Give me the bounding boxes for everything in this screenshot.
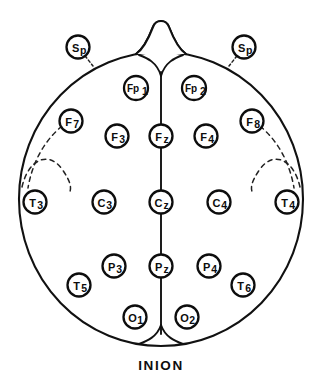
electrode-label-sub-fz: z <box>164 133 169 145</box>
leader-line-sp-left <box>85 56 93 66</box>
electrode-label-sub-cz: z <box>164 199 169 211</box>
electrode-label-sub-o2: 2 <box>189 314 195 326</box>
electrode-label-main-sp-left: S <box>72 42 79 54</box>
electrode-label-sub-t4: 4 <box>289 199 295 211</box>
electrode-c3[interactable]: C3 <box>93 191 116 214</box>
electrode-o1[interactable]: O1 <box>124 306 147 329</box>
electrode-o2[interactable]: O2 <box>176 306 199 329</box>
electrode-label-main-fz: F <box>155 131 162 143</box>
electrode-label-main-sp-right: S <box>238 42 245 54</box>
electrode-label-sub-p3: 3 <box>116 263 122 275</box>
electrode-fp2[interactable]: Fp2 <box>182 76 206 100</box>
electrode-label-sub-p4: 4 <box>211 263 217 275</box>
electrode-label-main-fp1: Fp <box>127 83 139 94</box>
electrode-label-sub-fp2: 2 <box>200 85 206 97</box>
electrode-label-sub-c3: 3 <box>106 199 112 211</box>
electrode-c4[interactable]: C4 <box>208 191 231 214</box>
electrode-label-main-p3: P <box>108 261 115 273</box>
electrode-label-main-cz: C <box>155 197 163 209</box>
electrode-sp-left[interactable]: Sp <box>67 36 90 59</box>
electrode-label-sub-f7: 7 <box>73 118 79 130</box>
electrode-label-sub-o1: 1 <box>137 314 143 326</box>
electrode-label-sub-c4: 4 <box>221 199 227 211</box>
electrode-label-sub-f4: 4 <box>208 133 214 145</box>
electrode-label-main-t4: T <box>281 197 288 209</box>
electrode-fp1[interactable]: Fp1 <box>124 76 148 100</box>
electrode-label-main-f3: F <box>111 131 118 143</box>
electrode-label-sub-fp1: 1 <box>142 85 148 97</box>
electrode-label-sub-f8: 8 <box>254 118 260 130</box>
electrode-f3[interactable]: F3 <box>106 125 129 148</box>
electrode-label-main-f8: F <box>246 116 253 128</box>
electrode-label-main-c4: C <box>213 197 221 209</box>
electrode-label-main-fp2: Fp <box>185 83 197 94</box>
electrode-label-main-t3: T <box>29 197 36 209</box>
electrode-label-main-pz: P <box>155 261 162 273</box>
electrode-label-main-o2: O <box>180 312 189 324</box>
electrode-cz[interactable]: Cz <box>150 191 173 214</box>
electrode-label-sub-f3: 3 <box>119 133 125 145</box>
electrode-label-main-t6: T <box>237 280 244 292</box>
electrode-t3[interactable]: T3 <box>24 191 47 214</box>
leader-line-sp-right <box>229 56 237 66</box>
electrode-label-main-f4: F <box>200 131 207 143</box>
electrode-label-main-c3: C <box>98 197 106 209</box>
electrode-fz[interactable]: Fz <box>150 125 173 148</box>
electrode-p3[interactable]: P3 <box>103 255 126 278</box>
electrode-label-sub-t6: 6 <box>245 282 251 294</box>
electrode-sp-right[interactable]: Sp <box>233 36 256 59</box>
electrode-label-sub-sp-left: p <box>80 44 86 56</box>
electrode-p4[interactable]: P4 <box>198 255 221 278</box>
nose-outline-overlay <box>136 21 186 54</box>
electrode-label-main-p4: P <box>203 261 210 273</box>
inion-label: INION <box>138 358 184 373</box>
electrode-f4[interactable]: F4 <box>195 125 218 148</box>
electrode-label-main-o1: O <box>128 312 137 324</box>
electrode-t6[interactable]: T6 <box>232 274 255 297</box>
electrode-label-main-f7: F <box>65 116 72 128</box>
electrode-t5[interactable]: T5 <box>68 274 91 297</box>
electrode-label-sub-t5: 5 <box>81 282 87 294</box>
electrode-label-main-t5: T <box>73 280 80 292</box>
electrode-f7[interactable]: F7 <box>60 110 83 133</box>
electrode-t4[interactable]: T4 <box>276 191 299 214</box>
electrode-label-sub-t3: 3 <box>37 199 43 211</box>
electrode-f8[interactable]: F8 <box>241 110 264 133</box>
electrode-pz[interactable]: Pz <box>150 255 173 278</box>
electrode-label-sub-pz: z <box>164 263 169 275</box>
eeg-electrode-diagram: SpSpFp1Fp2F7F8F3FzF4T3C3CzC4T4P3PzP4T5T6… <box>0 0 322 379</box>
electrode-label-sub-sp-right: p <box>246 44 252 56</box>
eeg-diagram-canvas: SpSpFp1Fp2F7F8F3FzF4T3C3CzC4T4P3PzP4T5T6… <box>0 0 322 379</box>
